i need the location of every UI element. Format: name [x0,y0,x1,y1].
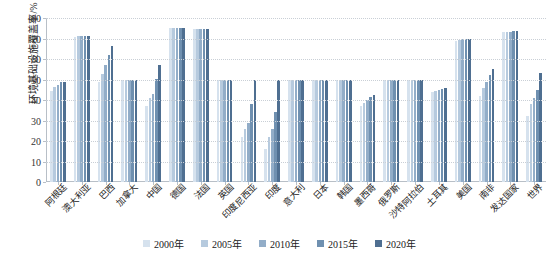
bar[interactable] [438,90,441,182]
legend-item[interactable]: 2010年 [259,236,300,251]
bar[interactable] [336,80,339,183]
bar[interactable] [98,82,101,182]
bar[interactable] [397,80,400,183]
bar[interactable] [152,94,155,182]
bar[interactable] [172,28,175,182]
bar[interactable] [104,65,107,182]
bar[interactable] [101,74,104,182]
bar[interactable] [342,80,345,183]
bar[interactable] [295,80,298,183]
bar[interactable] [206,29,209,182]
bar[interactable] [431,92,434,182]
bar[interactable] [135,80,138,183]
bar[interactable] [319,80,322,183]
bar[interactable] [277,80,280,183]
bar[interactable] [516,31,519,182]
legend-item[interactable]: 2005年 [201,236,242,251]
bar[interactable] [84,36,87,182]
bar[interactable] [465,39,468,183]
bar[interactable] [288,80,291,183]
bar[interactable] [268,137,271,182]
bar[interactable] [339,80,342,183]
bar[interactable] [383,80,386,183]
bar[interactable] [539,73,542,182]
bar[interactable] [169,28,172,182]
bar[interactable] [393,80,396,183]
bar[interactable] [199,29,202,182]
bar[interactable] [441,89,444,182]
bar[interactable] [182,28,185,182]
bar[interactable] [485,82,488,182]
bar[interactable] [417,80,420,183]
bar[interactable] [291,80,294,183]
bar[interactable] [274,112,277,182]
bar[interactable] [108,55,111,183]
bar[interactable] [390,80,393,183]
bar[interactable] [298,80,301,183]
bar[interactable] [482,88,485,182]
bar[interactable] [125,80,128,183]
bar[interactable] [244,129,247,182]
bar[interactable] [530,104,533,182]
bar[interactable] [264,149,267,182]
bar[interactable] [254,80,257,183]
bar[interactable] [325,80,328,183]
bar[interactable] [220,80,223,183]
bar[interactable] [63,82,66,182]
bar[interactable] [230,80,233,183]
bar[interactable] [420,80,423,183]
bar[interactable] [509,32,512,182]
bar[interactable] [80,36,83,182]
legend-item[interactable]: 2020年 [375,236,416,251]
bar[interactable] [533,98,536,182]
bar[interactable] [315,80,318,183]
bar[interactable] [502,32,505,182]
legend-item[interactable]: 2000年 [143,236,184,251]
bar[interactable] [360,106,363,182]
bar[interactable] [411,80,414,183]
bar[interactable] [179,28,182,182]
bar[interactable] [53,87,56,182]
bar[interactable] [363,103,366,182]
bar[interactable] [536,90,539,182]
bar[interactable] [434,91,437,182]
bar[interactable] [128,80,131,183]
bar[interactable] [414,80,417,183]
bar[interactable] [131,80,134,183]
legend-item[interactable]: 2015年 [317,236,358,251]
bar[interactable] [217,80,220,183]
bar[interactable] [176,28,179,182]
bar[interactable] [241,137,244,182]
bar[interactable] [489,75,492,182]
bar[interactable] [121,80,124,183]
bar[interactable] [196,29,199,182]
bar[interactable] [492,69,495,182]
bar[interactable] [87,36,90,182]
bar[interactable] [373,95,376,182]
bar[interactable] [203,29,206,182]
bar[interactable] [349,80,352,183]
bar[interactable] [369,97,372,182]
bar[interactable] [250,104,253,182]
bar[interactable] [512,31,515,182]
bar[interactable] [322,80,325,183]
bar[interactable] [444,88,447,182]
bar[interactable] [468,39,471,183]
bar[interactable] [223,80,226,183]
bar[interactable] [526,116,529,182]
bar[interactable] [271,129,274,182]
bar[interactable] [60,82,63,182]
bar[interactable] [50,91,53,182]
bar[interactable] [149,98,152,182]
bar[interactable] [145,106,148,182]
bar[interactable] [227,80,230,183]
bar[interactable] [301,80,304,183]
bar[interactable] [247,123,250,182]
bar[interactable] [346,80,349,183]
bar[interactable] [479,96,482,182]
bar[interactable] [155,79,158,182]
bar[interactable] [312,80,315,183]
bar[interactable] [158,65,161,182]
bar[interactable] [407,80,410,183]
bar[interactable] [387,80,390,183]
